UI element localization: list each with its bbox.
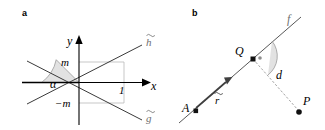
unit-one-label: 1 [119,84,125,96]
negative-m-label: −m [55,97,70,109]
line-g [27,61,142,120]
point-p-marker [296,109,302,115]
figure-container: a b x y [0,0,325,130]
direction-vector-label: r [215,92,223,106]
line-f-label: f [287,12,292,26]
line-h-label-text: h [146,36,152,48]
panel-b-diagram: Q A P f d r [165,0,325,130]
line-h-label: h [146,34,155,48]
distance-segment-d [253,59,298,110]
m-label: m [61,56,69,68]
direction-vector-shaft [196,82,226,108]
direction-vector-label-text: r [215,94,220,106]
y-axis-arrowhead [75,35,82,44]
line-g-label-text: g [146,112,152,124]
point-a-label: A [181,101,190,115]
distance-d-label: d [276,68,283,82]
x-axis-arrowhead [142,79,151,87]
line-h [27,45,142,104]
point-p-label: P [302,94,311,108]
point-a-marker [194,109,199,114]
x-axis-label: x [150,79,157,93]
point-q-marker [251,57,256,62]
y-axis-label: y [66,34,73,48]
alpha-angle-label: α [50,77,57,91]
panel-a-diagram: x y m −m 1 α h g [0,0,165,130]
point-q-label: Q [235,44,244,58]
line-g-label: g [146,110,155,124]
right-angle-marker [258,56,262,60]
